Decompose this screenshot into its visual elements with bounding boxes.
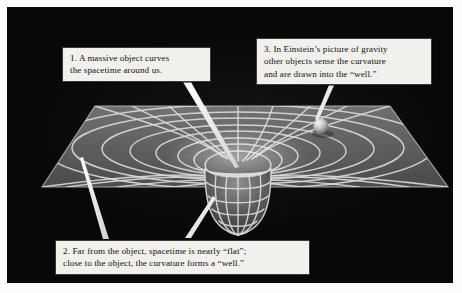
gravity-well-funnel [205, 169, 271, 235]
leader-line-2b [185, 196, 216, 238]
callout-3: 3. In Einstein’s picture of gravity othe… [256, 38, 432, 85]
callout-2: 2. Far from the object, spacetime is nea… [55, 240, 310, 275]
illustration-plate: 1. A massive object curves the spacetime… [7, 7, 453, 283]
figure-page: 1. A massive object curves the spacetime… [0, 0, 462, 293]
callout-1: 1. A massive object curves the spacetime… [62, 47, 211, 82]
